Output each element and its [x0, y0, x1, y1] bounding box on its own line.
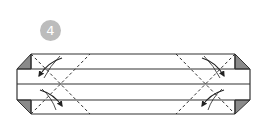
origami-fold-diagram [0, 0, 270, 124]
fold-arrows [39, 56, 224, 110]
arrow-right-lower-icon [202, 90, 224, 106]
arrow-left-lower-icon [40, 90, 62, 106]
